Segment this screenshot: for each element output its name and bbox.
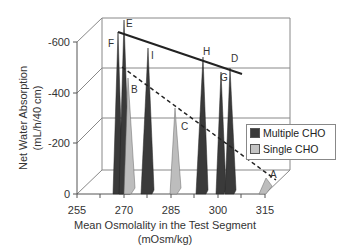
label-H: H: [203, 46, 210, 57]
chart-container: F E I H G D B C A -600 -400 -200 0 255 2…: [0, 0, 337, 252]
x-tick-300: 300: [209, 204, 227, 216]
x-tick-255: 255: [68, 204, 86, 216]
y-tick-600: -600: [48, 36, 70, 48]
label-I: I: [151, 50, 154, 61]
y-axis-label: Net Water Absorption: [17, 66, 29, 170]
legend: Multiple CHO Single CHO: [246, 124, 336, 160]
label-E: E: [126, 18, 133, 29]
legend-item-single-cho: Single CHO: [247, 141, 335, 157]
legend-item-multiple-cho: Multiple CHO: [247, 125, 335, 141]
spike-A: [259, 178, 272, 194]
x-tick-285: 285: [162, 204, 180, 216]
spike-I: [141, 48, 154, 194]
y-tick-400: -400: [48, 87, 70, 99]
legend-swatch-light-icon: [250, 144, 260, 154]
x-tick-marks: [77, 194, 265, 198]
spike-G: [216, 72, 226, 194]
label-A: A: [270, 169, 277, 180]
legend-label: Single CHO: [263, 143, 318, 155]
x-tick-270: 270: [115, 204, 133, 216]
label-D: D: [231, 53, 238, 64]
x-axis-label: Mean Osmolality in the Test Segment: [74, 219, 256, 231]
label-C: C: [181, 121, 188, 132]
y-tick-200: -200: [48, 137, 70, 149]
y-tick-marks: [73, 42, 77, 194]
y-tick-0: 0: [64, 188, 70, 200]
x-tick-315: 315: [256, 204, 274, 216]
label-B: B: [131, 84, 138, 95]
spike-C: [170, 108, 181, 194]
x-axis-units: (mOsm/kg): [138, 233, 192, 245]
spike-D: [225, 68, 236, 194]
label-G: G: [220, 72, 228, 83]
y-axis-units: (mL/h/40 cm): [31, 86, 43, 151]
legend-label: Multiple CHO: [263, 127, 325, 139]
legend-swatch-dark-icon: [250, 128, 260, 138]
label-F: F: [108, 38, 114, 49]
